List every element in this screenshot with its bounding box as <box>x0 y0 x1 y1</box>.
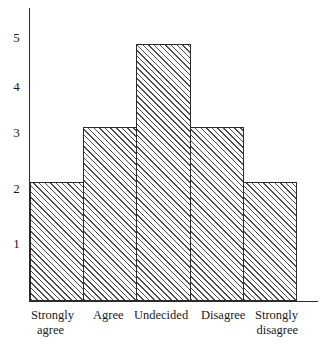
y-tick-label-4: 4 <box>0 80 20 93</box>
category-label-line2: agree <box>37 323 74 338</box>
category-label-disagree: Disagree <box>201 308 245 323</box>
category-label-line1: Undecided <box>134 308 188 323</box>
category-label-line1: Strongly <box>31 308 74 323</box>
x-axis-line <box>29 301 318 302</box>
category-label-line1: Disagree <box>201 308 245 323</box>
bar-agree[interactable] <box>83 127 137 301</box>
category-label-line1: Agree <box>93 308 124 323</box>
plot-area <box>30 8 296 301</box>
category-label-strongly-agree: Strongly agree <box>31 308 74 338</box>
category-label-strongly-disagree: Strongly disagree <box>255 308 298 338</box>
y-tick-label-5: 5 <box>0 31 20 44</box>
bar-strongly-agree[interactable] <box>30 182 84 301</box>
y-tick-label-3: 3 <box>0 126 20 139</box>
y-tick-label-2: 2 <box>0 182 20 195</box>
y-tick-label-1: 1 <box>0 237 20 250</box>
bar-strongly-disagree[interactable] <box>243 182 297 301</box>
bar-chart: 5 4 3 2 1 Strongly agree Agree Undecided… <box>0 0 331 354</box>
category-label-undecided: Undecided <box>134 308 188 323</box>
category-label-line1: Strongly <box>255 308 298 323</box>
bar-undecided[interactable] <box>136 44 190 301</box>
category-label-line2: disagree <box>255 323 298 338</box>
bar-disagree[interactable] <box>190 127 244 301</box>
category-label-agree: Agree <box>93 308 124 323</box>
